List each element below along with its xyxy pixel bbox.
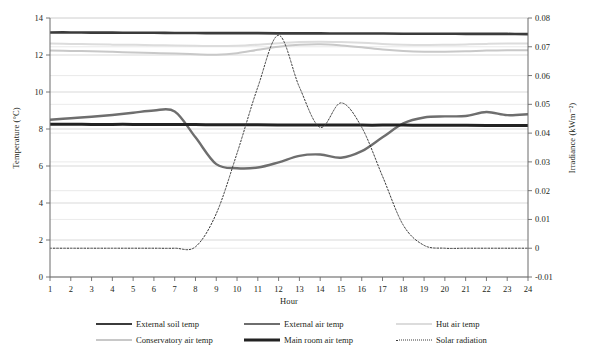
legend-item-external-air-temp[interactable]: External air temp [244,319,396,329]
svg-text:0.04: 0.04 [535,128,551,138]
legend-item-conservatory-air-temp[interactable]: Conservatory air temp [96,335,244,345]
svg-text:10: 10 [233,284,242,294]
svg-text:21: 21 [461,284,470,294]
svg-text:0.03: 0.03 [535,157,550,167]
legend-label: External air temp [284,319,344,329]
svg-text:19: 19 [420,284,429,294]
svg-text:8: 8 [39,124,43,134]
legend-swatch-dotted-line-icon [396,335,432,345]
svg-text:11: 11 [254,284,262,294]
svg-text:0.01: 0.01 [535,214,550,224]
svg-text:5: 5 [131,284,135,294]
series-line-conservatory-air-temp [50,44,528,54]
svg-text:6: 6 [39,161,43,171]
svg-text:6: 6 [152,284,156,294]
legend-swatch-line-icon [244,335,280,345]
legend-label: Hut air temp [436,319,479,329]
legend-swatch-line-icon [244,319,280,329]
svg-text:16: 16 [357,284,366,294]
svg-text:1: 1 [48,284,52,294]
svg-text:3: 3 [89,284,93,294]
svg-text:0.02: 0.02 [535,186,550,196]
chart-legend: External soil temp External air temp Hut… [96,316,516,348]
plot-frame [50,18,528,277]
svg-text:2: 2 [69,284,73,294]
y-axis-right-ticks: -0.0100.010.020.030.040.050.060.070.08 [528,13,553,282]
svg-text:4: 4 [39,198,44,208]
x-axis-ticks: 123456789101112131415161718192021222324 [48,277,533,294]
svg-text:0.05: 0.05 [535,99,550,109]
legend-label: Solar radiation [436,335,487,345]
svg-text:0: 0 [39,272,43,282]
svg-text:18: 18 [399,284,408,294]
svg-text:22: 22 [482,284,491,294]
svg-text:0.08: 0.08 [535,13,550,23]
series-line-solar-radiation [50,35,528,249]
svg-text:2: 2 [39,235,43,245]
series-line-external-soil-temp [50,32,528,34]
svg-text:24: 24 [524,284,533,294]
svg-text:8: 8 [193,284,197,294]
legend-label: External soil temp [136,319,199,329]
svg-text:20: 20 [441,284,450,294]
svg-text:4: 4 [110,284,115,294]
legend-label: Conservatory air temp [136,335,213,345]
svg-text:14: 14 [316,284,325,294]
gridlines [50,18,528,277]
legend-item-external-soil-temp[interactable]: External soil temp [96,319,244,329]
data-series-layer [50,32,528,249]
chart-root: Temperature (°C) Irradiance (kWm⁻²) Hour… [0,0,590,362]
svg-text:0.07: 0.07 [535,42,550,52]
svg-text:9: 9 [214,284,218,294]
svg-text:15: 15 [337,284,346,294]
svg-text:0.06: 0.06 [535,71,550,81]
y-axis-left-ticks: 02468101214 [35,13,51,282]
svg-text:0: 0 [535,243,539,253]
svg-text:13: 13 [295,284,304,294]
svg-text:14: 14 [35,13,44,23]
legend-label: Main room air temp [284,335,353,345]
legend-swatch-line-icon [396,319,432,329]
legend-item-solar-radiation[interactable]: Solar radiation [396,335,526,345]
svg-text:-0.01: -0.01 [535,272,553,282]
legend-swatch-line-icon [96,335,132,345]
legend-item-hut-air-temp[interactable]: Hut air temp [396,319,526,329]
legend-item-main-room-air-temp[interactable]: Main room air temp [244,335,396,345]
svg-text:17: 17 [378,284,387,294]
svg-text:12: 12 [35,50,44,60]
svg-text:10: 10 [35,87,44,97]
series-line-external-air-temp [50,109,528,168]
legend-swatch-line-icon [96,319,132,329]
svg-text:7: 7 [173,284,177,294]
svg-text:12: 12 [274,284,283,294]
svg-text:23: 23 [503,284,512,294]
series-line-main-room-air-temp [50,124,528,125]
chart-plot-area: 02468101214 -0.0100.010.020.030.040.050.… [0,0,590,362]
